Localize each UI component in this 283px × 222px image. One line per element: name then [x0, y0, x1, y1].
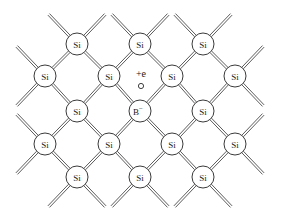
bond-0-203-172 — [179, 51, 196, 69]
bond-stub-235-144-1 — [242, 114, 264, 137]
atom-si-r4c0: Si — [66, 166, 88, 188]
bond-stub-140-44-1 — [147, 14, 169, 37]
atom-si-r2c2: Si — [192, 100, 214, 122]
bond-2-77-109 — [84, 118, 102, 137]
bond-stub-235-76-3 — [242, 83, 264, 106]
atom-si-r1c3: Si — [224, 65, 246, 87]
annotations-layer: +e — [136, 68, 147, 89]
atom-si-r1c0: Si — [34, 65, 56, 87]
atom-si-r0c0-label: Si — [73, 40, 81, 50]
atom-si-r3c1: Si — [98, 133, 120, 155]
atom-boron-dopant: B− — [129, 100, 151, 122]
atom-si-r0c2: Si — [192, 33, 214, 55]
bond-0-140-109 — [116, 51, 133, 69]
bond-2-140-109 — [116, 118, 134, 136]
atom-si-r3c0: Si — [34, 133, 56, 155]
atom-si-r0c1-label: Si — [136, 40, 144, 50]
bond-stub-77-44-1 — [84, 14, 106, 37]
atom-si-r2c0: Si — [66, 100, 88, 122]
bond-stub-77-177-2 — [48, 184, 70, 207]
atom-si-r2c2-label: Si — [199, 107, 207, 117]
bond-0-203-235 — [210, 51, 228, 69]
bond-stub-77-177-3 — [84, 184, 106, 207]
atom-si-r4c2: Si — [192, 166, 214, 188]
bond-stub-203-44-0 — [174, 14, 196, 37]
atom-si-r4c1: Si — [129, 166, 151, 188]
bond-stub-235-144-3 — [242, 151, 264, 174]
bond-stub-203-177-3 — [210, 184, 232, 207]
bond-1-109-140 — [115, 84, 133, 104]
bond-2-77-45 — [52, 118, 70, 137]
bond-stub-140-177-2 — [111, 184, 133, 207]
atom-si-r1c1: Si — [98, 65, 120, 87]
bond-3-45-77 — [52, 151, 70, 170]
atom-si-r0c0: Si — [66, 33, 88, 55]
atom-si-r1c1-label: Si — [105, 72, 113, 82]
bond-1-109-77 — [84, 83, 103, 103]
bond-3-172-140 — [147, 151, 165, 170]
bond-2-203-235 — [210, 118, 228, 137]
bond-3-109-77 — [84, 151, 102, 170]
bond-1-45-77 — [52, 83, 71, 103]
bond-1-172-203 — [178, 84, 196, 104]
bond-stub-45-76-2 — [16, 83, 38, 106]
bond-stub-45-76-0 — [16, 46, 38, 69]
atom-si-r3c0-label: Si — [41, 140, 49, 150]
atom-si-r4c1-label: Si — [136, 173, 144, 183]
atom-si-r1c3-label: Si — [231, 72, 239, 82]
lattice-diagram: SiSiSiSiSiSiSiSiB−SiSiSiSiSiSiSiSi +e — [0, 0, 283, 222]
bond-0-77-45 — [52, 51, 70, 69]
atom-si-r4c2-label: Si — [199, 173, 207, 183]
bond-stub-203-177-2 — [174, 184, 196, 207]
charge-label: +e — [136, 68, 147, 79]
bond-3-109-140 — [116, 151, 134, 169]
bond-stub-45-144-0 — [16, 114, 38, 137]
bond-2-140-172 — [147, 118, 165, 137]
bond-0-140-172 — [147, 51, 165, 69]
atom-si-r0c1: Si — [129, 33, 151, 55]
bond-2-203-172 — [179, 118, 197, 136]
bond-0-77-109 — [84, 51, 102, 69]
bond-stub-77-44-0 — [48, 14, 70, 37]
bond-3-235-203 — [210, 151, 228, 170]
bond-stub-45-144-2 — [16, 151, 38, 174]
atom-si-r1c0-label: Si — [41, 72, 49, 82]
atom-si-r2c0-label: Si — [73, 107, 81, 117]
atom-si-r1c2-label: Si — [168, 72, 176, 82]
atom-si-r1c2: Si — [161, 65, 183, 87]
atom-si-r3c2-label: Si — [168, 140, 176, 150]
silicon-lattice-figure: SiSiSiSiSiSiSiSiB−SiSiSiSiSiSiSiSi +e — [0, 0, 283, 222]
atom-si-r3c1-label: Si — [105, 140, 113, 150]
hole-marker — [138, 83, 143, 88]
bond-1-235-203 — [210, 83, 229, 103]
bond-1-172-140 — [147, 83, 166, 103]
atom-si-r3c2: Si — [161, 133, 183, 155]
bond-stub-140-177-3 — [147, 184, 169, 207]
bond-stub-140-44-0 — [111, 14, 133, 37]
atom-si-r4c0-label: Si — [73, 173, 81, 183]
bond-stub-235-76-1 — [242, 46, 264, 69]
atom-si-r3c3: Si — [224, 133, 246, 155]
bond-3-172-203 — [179, 151, 197, 169]
atom-si-r0c2-label: Si — [199, 40, 207, 50]
atom-si-r3c3-label: Si — [231, 140, 239, 150]
bond-stub-203-44-1 — [210, 14, 232, 37]
